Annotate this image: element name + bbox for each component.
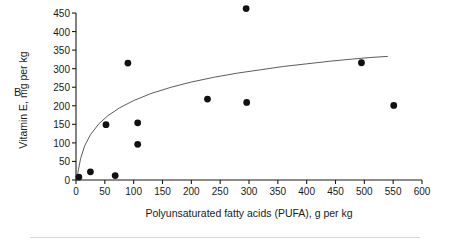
fit-curve-path [78, 56, 388, 173]
y-tick-label: 250 [44, 82, 70, 93]
x-tick-label: 600 [414, 186, 431, 197]
axes-group [72, 13, 422, 184]
data-point [243, 5, 250, 12]
fit-curve [78, 56, 388, 173]
y-axis-label: Vitamin E, mg per kg [17, 30, 29, 170]
y-tick-label: 350 [44, 45, 70, 56]
data-point [112, 172, 119, 179]
data-point [134, 141, 141, 148]
y-tick-label: 50 [44, 156, 70, 167]
x-tick-label: 400 [298, 186, 315, 197]
data-point [103, 121, 110, 128]
x-tick-label: 200 [183, 186, 200, 197]
data-points-group [75, 5, 397, 180]
data-point [358, 59, 365, 66]
y-tick-label: 150 [44, 119, 70, 130]
y-tick-label: 450 [44, 8, 70, 19]
data-point [390, 102, 397, 109]
data-point [134, 119, 141, 126]
data-point [87, 168, 94, 175]
x-tick-label: 500 [356, 186, 373, 197]
data-point [125, 60, 132, 67]
y-tick-label: 0 [44, 175, 70, 186]
x-axis-label: Polyunsaturated fatty acids (PUFA), g pe… [76, 207, 422, 219]
data-point [204, 96, 211, 103]
y-tick-label: 100 [44, 137, 70, 148]
x-tick-label: 0 [73, 186, 79, 197]
data-point [243, 99, 250, 106]
x-tick-label: 300 [241, 186, 258, 197]
y-tick-label: 400 [44, 26, 70, 37]
bottom-divider-rule [30, 237, 420, 238]
x-tick-label: 100 [125, 186, 142, 197]
y-tick-label: 300 [44, 63, 70, 74]
x-tick-label: 50 [99, 186, 110, 197]
x-tick-label: 150 [154, 186, 171, 197]
x-tick-label: 450 [327, 186, 344, 197]
y-tick-label: 200 [44, 100, 70, 111]
scatter-plot-figure: B Vitamin E, mg per kg Polyunsaturated f… [0, 0, 449, 247]
data-point [75, 174, 82, 181]
x-tick-label: 250 [212, 186, 229, 197]
x-tick-label: 550 [385, 186, 402, 197]
x-tick-label: 350 [269, 186, 286, 197]
